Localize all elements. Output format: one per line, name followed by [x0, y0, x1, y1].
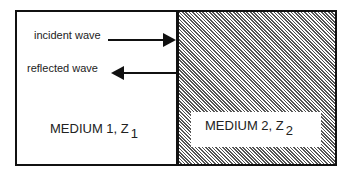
reflected-wave-arrow	[122, 72, 176, 74]
incident-wave-label: incident wave	[34, 29, 101, 41]
diagram-frame: MEDIUM 2, Z2 incident wave reflected wav…	[15, 10, 337, 166]
medium-2-region-hatched: MEDIUM 2, Z2	[179, 12, 335, 164]
medium-2-label: MEDIUM 2, Z2	[205, 118, 293, 133]
reflected-wave-label: reflected wave	[27, 62, 98, 74]
arrow-left-icon	[111, 66, 124, 80]
medium-1-label: MEDIUM 1, Z1	[50, 121, 138, 136]
incident-wave-arrow	[108, 39, 166, 41]
arrow-right-icon	[163, 33, 176, 47]
interface-boundary	[176, 12, 179, 164]
medium-2-label-box: MEDIUM 2, Z2	[191, 112, 321, 147]
